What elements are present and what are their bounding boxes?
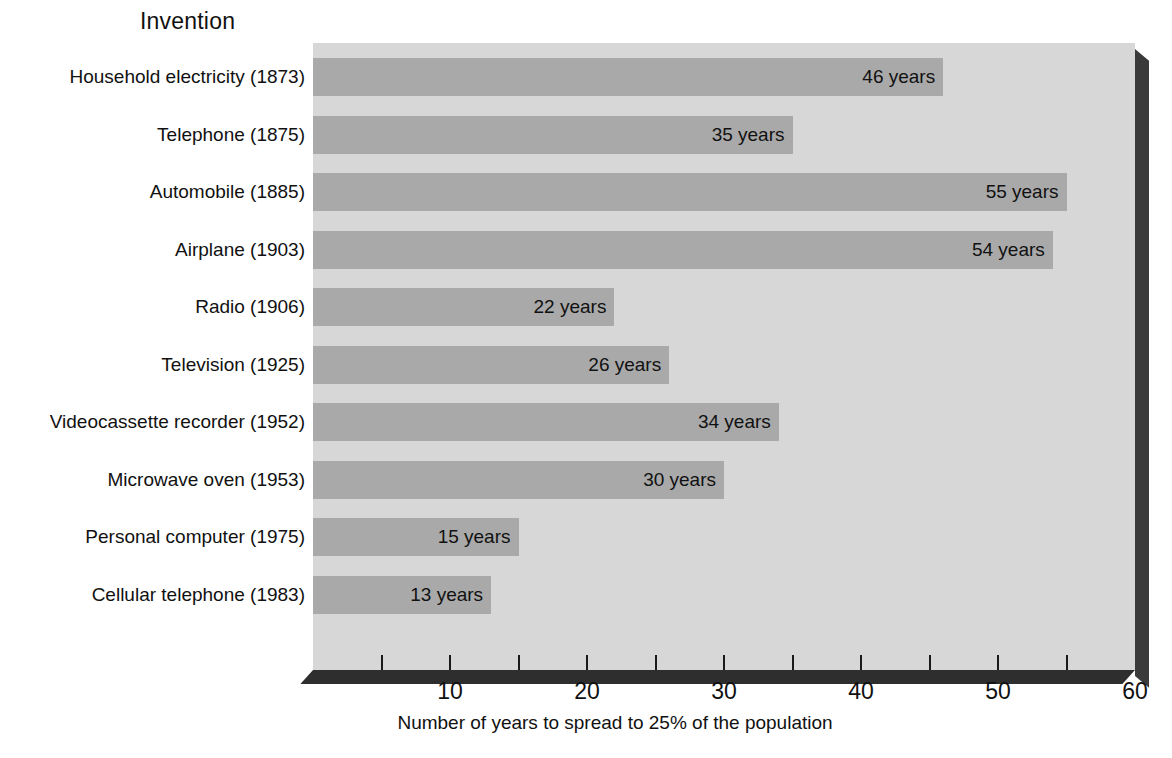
x-axis-tick-label: 20 [574, 678, 600, 705]
bar-row: 34 years [313, 403, 779, 441]
bar: 13 years [313, 576, 491, 614]
bar-value-label: 54 years [972, 239, 1045, 261]
x-axis-tick-labels: 102030405060 [313, 678, 1172, 712]
bar-value-label: 35 years [712, 124, 785, 146]
x-axis-tick-label: 60 [1122, 678, 1148, 705]
category-label: Microwave oven (1953) [0, 461, 305, 499]
category-label: Personal computer (1975) [0, 518, 305, 556]
bar: 15 years [313, 518, 519, 556]
plot-panel: 46 years35 years55 years54 years22 years… [313, 43, 1135, 670]
bar: 55 years [313, 173, 1067, 211]
bar-chart: Invention Household electricity (1873)Te… [0, 0, 1172, 758]
category-label: Telephone (1875) [0, 116, 305, 154]
bar: 26 years [313, 346, 669, 384]
bar-value-label: 30 years [643, 469, 716, 491]
bar: 30 years [313, 461, 724, 499]
x-axis-tick-label: 30 [711, 678, 737, 705]
category-label: Automobile (1885) [0, 173, 305, 211]
bar: 54 years [313, 231, 1053, 269]
bar-row: 46 years [313, 58, 943, 96]
bar-value-label: 46 years [862, 66, 935, 88]
bar-row: 26 years [313, 346, 669, 384]
bar-row: 13 years [313, 576, 491, 614]
category-label: Airplane (1903) [0, 231, 305, 269]
category-label: Household electricity (1873) [0, 58, 305, 96]
category-label: Television (1925) [0, 346, 305, 384]
bar: 22 years [313, 288, 614, 326]
plot-area: 46 years35 years55 years54 years22 years… [313, 43, 1135, 670]
category-label: Cellular telephone (1983) [0, 576, 305, 614]
bar: 35 years [313, 116, 793, 154]
bar-value-label: 22 years [534, 296, 607, 318]
bar-value-label: 15 years [438, 526, 511, 548]
bar: 34 years [313, 403, 779, 441]
category-label: Videocassette recorder (1952) [0, 403, 305, 441]
x-axis-tick-label: 40 [848, 678, 874, 705]
x-axis-tick-label: 50 [985, 678, 1011, 705]
category-axis-title: Invention [140, 8, 235, 35]
bar-row: 55 years [313, 173, 1067, 211]
bar-row: 30 years [313, 461, 724, 499]
bar-row: 35 years [313, 116, 793, 154]
bar: 46 years [313, 58, 943, 96]
value-axis-title-text: Number of years to spread to 25% of the … [397, 712, 832, 734]
bar-row: 22 years [313, 288, 614, 326]
value-axis-title: Number of years to spread to 25% of the … [0, 712, 1172, 734]
bar-value-label: 26 years [588, 354, 661, 376]
plot-right-bevel [1135, 49, 1149, 688]
category-label-column: Household electricity (1873)Telephone (1… [0, 43, 305, 670]
bar-row: 54 years [313, 231, 1053, 269]
category-label: Radio (1906) [0, 288, 305, 326]
x-axis-tick-label: 10 [437, 678, 463, 705]
bar-value-label: 13 years [410, 584, 483, 606]
bar-row: 15 years [313, 518, 519, 556]
bar-value-label: 34 years [698, 411, 771, 433]
bar-value-label: 55 years [986, 181, 1059, 203]
